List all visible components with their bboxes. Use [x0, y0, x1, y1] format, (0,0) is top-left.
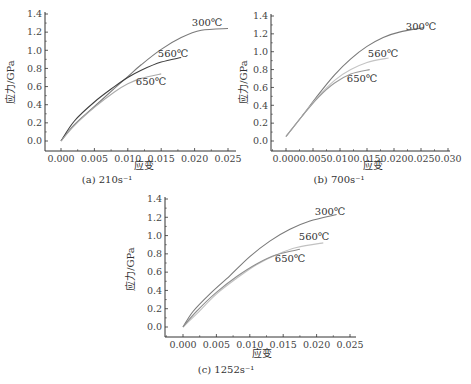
series-line — [286, 58, 389, 137]
y-tick-label: 1.4 — [27, 8, 42, 19]
y-tick-label: 1.2 — [147, 212, 162, 223]
series-label: 560℃ — [368, 48, 398, 59]
y-tick-label: 0.8 — [253, 64, 268, 75]
x-tick-label: 0.025 — [214, 153, 241, 164]
y-axis-title: 应力/GPa — [237, 60, 249, 104]
y-tick-label: 0.4 — [27, 99, 42, 110]
x-tick-label: 0.025 — [336, 339, 363, 350]
series-label: 650℃ — [347, 73, 377, 84]
series-label: 650℃ — [275, 253, 305, 264]
panel-caption: (c) 1252s⁻¹ — [198, 364, 254, 375]
series-label: 560℃ — [158, 48, 188, 59]
panel-caption: (a) 210s⁻¹ — [82, 174, 132, 185]
y-tick-label: 0.0 — [253, 135, 268, 146]
y-tick-label: 0.8 — [27, 63, 42, 74]
y-tick-label: 0.6 — [27, 81, 42, 92]
series-label: 300℃ — [406, 21, 436, 32]
y-tick-label: 0.2 — [147, 303, 162, 314]
panel-caption: (b) 700s⁻¹ — [314, 174, 365, 185]
chart-panel-a: 0.00.20.40.60.81.01.21.40.0000.0050.0100… — [4, 8, 242, 185]
x-tick-label: 0.015 — [270, 339, 297, 350]
x-tick-label: 0.005 — [203, 339, 230, 350]
y-tick-label: 0.2 — [27, 117, 42, 128]
y-tick-label: 0.0 — [147, 321, 162, 332]
y-tick-label: 0.0 — [27, 135, 42, 146]
x-axis-title: 应变 — [363, 159, 383, 171]
x-tick-label: 0.005 — [299, 153, 326, 164]
x-tick-label: 0.030 — [434, 153, 461, 164]
y-tick-label: 0.6 — [253, 82, 268, 93]
y-tick-label: 1.4 — [253, 10, 268, 21]
figure: 0.00.20.40.60.81.01.21.40.0000.0050.0100… — [0, 0, 471, 384]
x-tick-label: 0.025 — [407, 153, 434, 164]
y-tick-label: 1.0 — [253, 46, 268, 57]
y-axis-title: 应力/GPa — [124, 247, 136, 291]
x-tick-label: 0.010 — [326, 153, 353, 164]
x-tick-label: 0.020 — [380, 153, 407, 164]
x-tick-label: 0.020 — [303, 339, 330, 350]
chart-panel-c: 0.00.20.40.60.81.01.21.40.0000.0050.0100… — [124, 193, 364, 375]
y-tick-label: 0.4 — [253, 100, 268, 111]
series-label: 650℃ — [136, 76, 166, 87]
chart-panel-b: 0.00.20.40.60.81.01.21.40.0000.0050.0100… — [237, 10, 462, 185]
series-label: 300℃ — [192, 17, 222, 28]
series-label: 560℃ — [299, 231, 329, 242]
series-label: 300℃ — [315, 206, 345, 217]
series-line — [61, 58, 181, 142]
y-tick-label: 0.6 — [147, 266, 162, 277]
x-tick-label: 0.005 — [81, 153, 108, 164]
x-axis-title: 应变 — [134, 159, 154, 171]
y-tick-label: 0.8 — [147, 248, 162, 259]
y-tick-label: 1.0 — [27, 45, 42, 56]
x-tick-label: 0.020 — [181, 153, 208, 164]
y-tick-label: 0.2 — [253, 117, 268, 128]
x-tick-label: 0.000 — [169, 339, 196, 350]
y-axis-title: 应力/GPa — [4, 60, 16, 104]
y-tick-label: 1.2 — [27, 26, 42, 37]
x-tick-label: 0.000 — [272, 153, 299, 164]
x-tick-label: 0.000 — [47, 153, 74, 164]
x-axis-title: 应变 — [252, 347, 272, 359]
y-tick-label: 1.0 — [147, 230, 162, 241]
y-tick-label: 1.2 — [253, 28, 268, 39]
y-tick-label: 1.4 — [147, 193, 162, 204]
y-tick-label: 0.4 — [147, 285, 162, 296]
